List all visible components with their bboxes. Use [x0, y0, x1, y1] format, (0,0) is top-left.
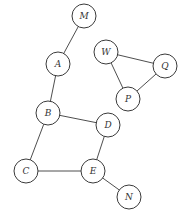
node-e: E: [81, 159, 105, 183]
node-label: W: [101, 47, 111, 57]
nodes-layer: MAWQPBDCEN: [14, 4, 177, 209]
node-label: A: [54, 59, 62, 69]
node-p: P: [116, 87, 140, 111]
node-n: N: [117, 185, 141, 209]
node-c: C: [14, 159, 38, 183]
node-label: E: [89, 166, 97, 176]
node-label: C: [23, 166, 30, 176]
node-label: P: [124, 94, 132, 104]
graph-diagram: MAWQPBDCEN: [0, 0, 181, 215]
node-label: B: [44, 108, 52, 118]
node-label: N: [124, 192, 134, 202]
node-label: D: [103, 120, 111, 130]
node-label: M: [78, 11, 89, 21]
node-m: M: [72, 4, 96, 28]
node-b: B: [36, 101, 60, 125]
node-d: D: [96, 113, 120, 137]
node-q: Q: [153, 54, 177, 78]
node-label: Q: [161, 61, 169, 71]
node-a: A: [46, 52, 70, 76]
node-w: W: [94, 40, 118, 64]
